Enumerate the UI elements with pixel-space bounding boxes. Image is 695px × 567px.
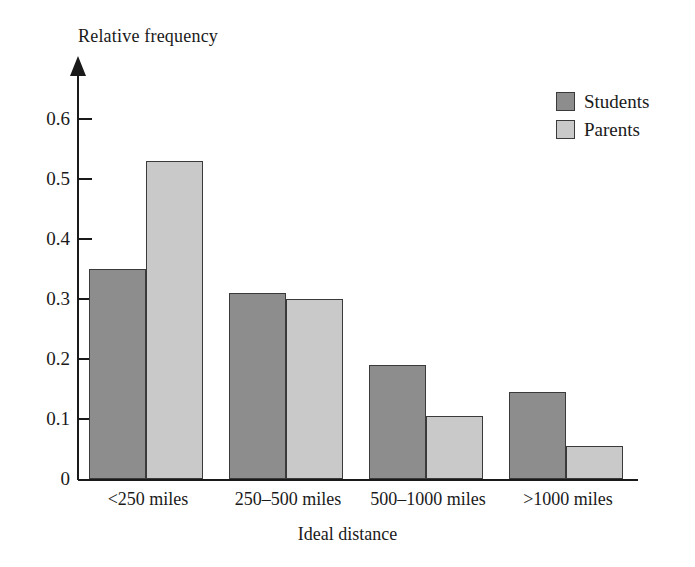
x-axis-category-label: 250–500 miles [218,489,358,510]
bar-students [369,365,426,479]
legend-label-students: Students [584,92,649,111]
bar-students [229,293,286,479]
x-axis-category-label: <250 miles [78,489,218,510]
legend-swatch-parents-icon [556,120,575,139]
legend: Students Parents [556,88,649,144]
legend-label-parents: Parents [584,120,640,139]
bar-parents [566,446,623,479]
bar-students [509,392,566,479]
x-axis-category-label: >1000 miles [498,489,638,510]
x-axis-title: Ideal distance [0,524,695,545]
bar-parents [146,161,203,479]
bar-chart: Relative frequency 00.10.20.30.40.50.6 <… [0,0,695,567]
legend-item-parents: Parents [556,116,649,142]
legend-item-students: Students [556,88,649,114]
plot-area [0,0,695,567]
bar-students [89,269,146,479]
x-axis-category-label: 500–1000 miles [358,489,498,510]
legend-swatch-students-icon [556,92,575,111]
bar-parents [426,416,483,479]
bar-parents [286,299,343,479]
